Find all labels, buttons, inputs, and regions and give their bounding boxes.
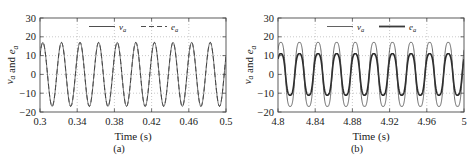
legend: vaea — [327, 22, 416, 33]
x-tick-label: 0.34 — [68, 116, 87, 127]
legend-label-v-a: va — [119, 22, 126, 33]
plot-content-a: −20−1001020300.30.340.380.420.460.5Time … — [3, 13, 233, 155]
x-tick-label: 4.96 — [418, 116, 436, 127]
x-tick-label: 4.88 — [343, 116, 361, 127]
y-axis-title: va and ea — [3, 45, 20, 84]
legend-subscript: a — [175, 26, 178, 33]
x-axis-title: Time (s) — [114, 130, 152, 143]
x-axis-title: Time (s) — [352, 130, 390, 143]
subplot-panel-a: −20−1001020300.30.340.380.420.460.5Time … — [0, 0, 238, 158]
legend-label-v-a: va — [357, 22, 364, 33]
y-axis-title-part: and — [5, 54, 17, 75]
y-tick-label: 30 — [26, 13, 37, 24]
y-tick-label: −10 — [258, 88, 274, 99]
y-tick-label: 20 — [26, 31, 37, 42]
x-tick-label: 4.8 — [271, 116, 284, 127]
legend-subscript: a — [361, 26, 364, 33]
y-axis-title: va and ea — [241, 45, 258, 84]
x-tick-label: 0.46 — [180, 116, 198, 127]
subplot-caption: (b) — [351, 143, 364, 155]
legend-label-e-a: ea — [409, 22, 416, 33]
x-tick-label: 0.3 — [33, 116, 46, 127]
y-tick-label: 30 — [264, 13, 275, 24]
plot-frame — [40, 18, 226, 112]
legend-label-e-a: ea — [171, 22, 178, 33]
x-tick-label: 4.92 — [380, 116, 398, 127]
gridlines — [40, 18, 226, 112]
figure-container: −20−1001020300.30.340.380.420.460.5Time … — [0, 0, 476, 158]
plot-svg-a: −20−1001020300.30.340.380.420.460.5Time … — [0, 0, 238, 158]
plot-svg-b: −20−1001020304.84.844.884.924.965Time (s… — [238, 0, 476, 158]
plot-content-b: −20−1001020304.84.844.884.924.965Time (s… — [241, 13, 467, 155]
y-tick-label: 0 — [31, 69, 36, 80]
x-tick-label: 0.38 — [105, 116, 123, 127]
y-axis-title-subscript: a — [11, 45, 20, 49]
y-tick-label: 10 — [264, 50, 275, 61]
y-tick-label: −10 — [20, 88, 36, 99]
y-axis-title-subscript: a — [249, 45, 258, 49]
x-tick-label: 0.5 — [219, 116, 232, 127]
y-tick-label: 0 — [269, 69, 274, 80]
subplot-caption: (a) — [113, 143, 125, 155]
x-tick-label: 4.84 — [306, 116, 325, 127]
x-tick-label: 5 — [461, 116, 466, 127]
x-tick-label: 0.42 — [142, 116, 160, 127]
subplot-panel-b: −20−1001020304.84.844.884.924.965Time (s… — [238, 0, 476, 158]
y-axis-title-part: and — [243, 54, 255, 75]
legend-subscript: a — [413, 26, 416, 33]
legend-subscript: a — [123, 26, 126, 33]
y-tick-label: 10 — [26, 50, 37, 61]
y-tick-label: 20 — [264, 31, 275, 42]
legend: vaea — [89, 22, 178, 33]
